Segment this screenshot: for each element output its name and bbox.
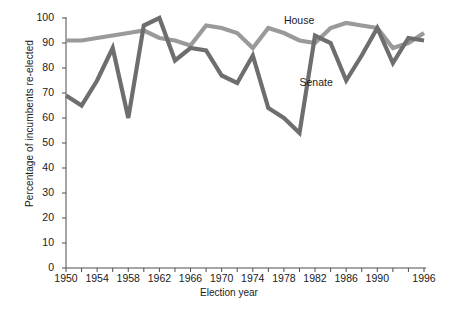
series-label-house: House xyxy=(284,14,314,26)
chart-figure: Percentage of incumbents re-elected Elec… xyxy=(0,0,458,316)
series-label-senate: Senate xyxy=(299,76,332,88)
plot-area xyxy=(0,0,458,316)
axes-group xyxy=(62,17,426,272)
